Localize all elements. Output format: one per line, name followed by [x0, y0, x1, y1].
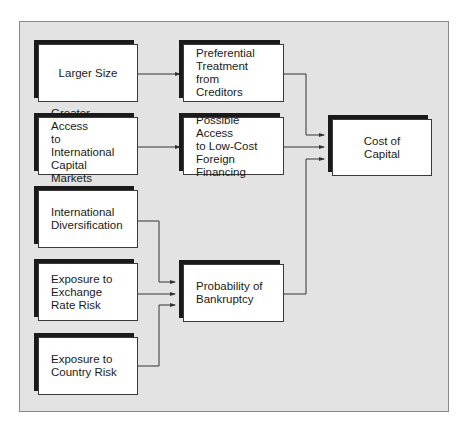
node-greater-access: Greater Access to International Capital … [38, 117, 138, 175]
node-label: Preferential Treatment from Creditors [183, 44, 284, 102]
node-label: Larger Size [38, 44, 138, 102]
node-label: Probability of Bankruptcy [183, 264, 284, 322]
node-label: International Diversification [38, 190, 138, 248]
node-international-diversification: International Diversification [38, 190, 138, 248]
node-label: Greater Access to International Capital … [38, 117, 138, 175]
node-exchange-rate-risk: Exposure to Exchange Rate Risk [38, 263, 138, 321]
node-label: Possible Access to Low-Cost Foreign Fina… [183, 117, 284, 175]
node-label: Exposure to Exchange Rate Risk [38, 263, 138, 321]
node-label: Exposure to Country Risk [38, 337, 138, 395]
node-larger-size: Larger Size [38, 44, 138, 102]
node-country-risk: Exposure to Country Risk [38, 337, 138, 395]
node-label: Cost of Capital [332, 119, 432, 176]
node-low-cost-foreign-financing: Possible Access to Low-Cost Foreign Fina… [183, 117, 284, 175]
node-preferential-treatment: Preferential Treatment from Creditors [183, 44, 284, 102]
node-cost-of-capital: Cost of Capital [332, 119, 432, 176]
node-probability-of-bankruptcy: Probability of Bankruptcy [183, 264, 284, 322]
